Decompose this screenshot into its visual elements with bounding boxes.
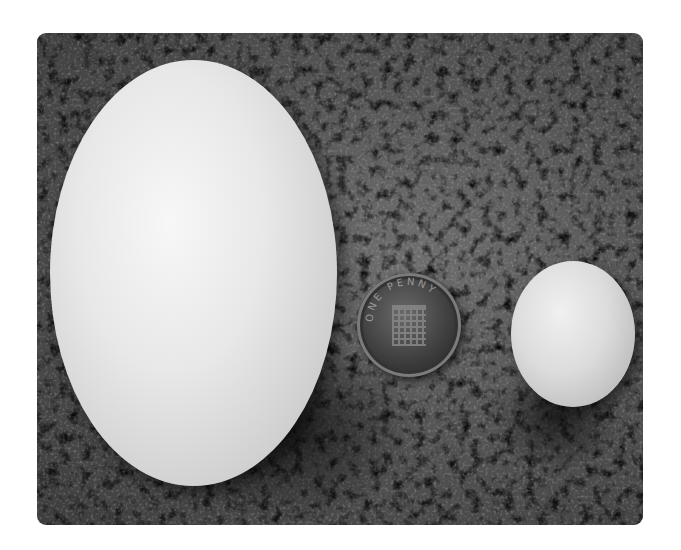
small-egg xyxy=(511,261,635,407)
portcullis-emblem xyxy=(392,305,426,346)
large-egg xyxy=(50,60,337,486)
coin: ONE PENNY xyxy=(357,273,461,377)
photo: ONE PENNY xyxy=(37,33,643,525)
